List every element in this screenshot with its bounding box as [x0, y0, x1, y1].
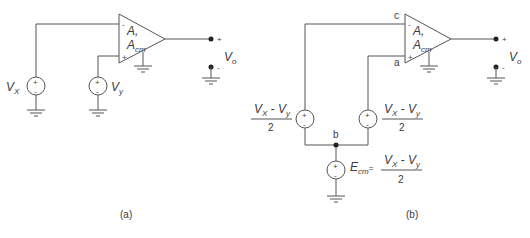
- ecm-numerator: VX - Vy: [384, 153, 421, 169]
- caption-b: (b): [406, 209, 418, 220]
- ecm-denominator: 2: [398, 174, 404, 185]
- vy-minus-sign: -: [96, 87, 99, 96]
- output-terminal-plus: [494, 37, 499, 42]
- minus-sign: -: [334, 171, 337, 180]
- left-source-numerator: VX - Vy: [254, 102, 291, 118]
- output-plus-sign: +: [502, 35, 507, 44]
- left-source-denominator: 2: [268, 122, 274, 133]
- opamp-ground-icon: [134, 52, 152, 72]
- output-terminal-plus: [209, 37, 214, 42]
- minus-sign: -: [303, 120, 306, 129]
- wire-vx-to-inverting: [36, 24, 119, 77]
- source-vx: + - VX: [6, 77, 45, 96]
- node-b-label: b: [333, 129, 339, 140]
- right-source-numerator: VX - Vy: [384, 102, 421, 118]
- output-voltage-label: Vo: [509, 50, 522, 66]
- differential-gain-label: A,: [412, 24, 424, 38]
- noninverting-input-sign: +: [408, 53, 413, 62]
- source-diff-right: + - VX - Vy 2: [359, 102, 423, 133]
- noninverting-input-sign: +: [122, 53, 127, 62]
- circuit-diagram: - + A, Acm + - Vo + - VX + - Vy: [0, 0, 530, 238]
- wire-left-source-to-c: [305, 24, 405, 110]
- node-c-label: c: [394, 10, 399, 21]
- plus-sign: +: [302, 111, 307, 120]
- output-minus-sign: -: [217, 63, 220, 72]
- output-minus-sign: -: [502, 63, 505, 72]
- source-vy: + - Vy: [89, 77, 124, 96]
- plus-sign: +: [333, 162, 338, 171]
- opamp-b: - + A, Acm: [405, 14, 451, 72]
- node-b-dot: [334, 143, 339, 148]
- vx-label: VX: [6, 80, 20, 96]
- vy-label: Vy: [111, 80, 124, 96]
- panel-b: c a b - + A, Acm + - Vo + - VX - Vy 2: [251, 10, 522, 220]
- differential-gain-label: A,: [126, 24, 138, 38]
- minus-sign: -: [366, 120, 369, 129]
- ecm-label: Ecm=: [350, 160, 374, 176]
- caption-a: (a): [120, 209, 132, 220]
- inverting-input-sign: -: [122, 20, 125, 29]
- vy-plus-sign: +: [95, 78, 100, 87]
- right-source-denominator: 2: [399, 122, 405, 133]
- ecm-ground-icon: [327, 196, 345, 202]
- opamp-ground-icon: [420, 52, 438, 72]
- vx-ground-icon: [27, 110, 45, 116]
- source-ecm: + - Ecm= VX - Vy 2: [327, 153, 422, 185]
- output-plus-sign: +: [217, 35, 222, 44]
- inverting-input-sign: -: [408, 20, 411, 29]
- opamp-a: - + A, Acm: [119, 14, 165, 72]
- node-a-label: a: [394, 57, 400, 68]
- vx-minus-sign: -: [34, 87, 37, 96]
- vx-plus-sign: +: [33, 78, 38, 87]
- output-voltage-label: Vo: [224, 50, 237, 66]
- vy-ground-icon: [89, 110, 107, 116]
- panel-a: - + A, Acm + - Vo + - VX + - Vy: [6, 14, 237, 220]
- plus-sign: +: [365, 111, 370, 120]
- wire-vy-to-noninverting: [98, 56, 119, 77]
